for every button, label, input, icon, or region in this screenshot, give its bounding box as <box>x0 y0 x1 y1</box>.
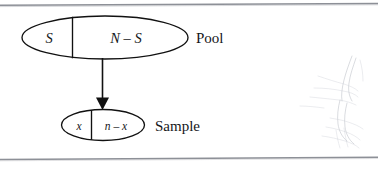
sample-label: Sample <box>155 118 200 134</box>
bottom-rule <box>0 157 378 159</box>
pool-label: Pool <box>196 30 224 46</box>
sample-right-cell-label: n – x <box>105 120 128 132</box>
sampling-arrow-head <box>96 98 109 111</box>
pool-sample-diagram: S N – S Pool x n – x Sample <box>0 0 378 173</box>
scan-artifact <box>300 56 363 148</box>
sample-left-cell-label: x <box>75 120 82 132</box>
figure-canvas: S N – S Pool x n – x Sample <box>0 0 378 173</box>
sample-ellipse <box>62 110 145 141</box>
pool-right-cell-label: N – S <box>109 30 142 46</box>
pool-left-cell-label: S <box>45 30 53 46</box>
sampling-arrow <box>96 58 109 110</box>
